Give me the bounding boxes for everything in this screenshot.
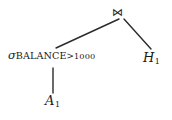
relation-a-symbol: A [45, 93, 54, 108]
predicate-comparison: > [67, 51, 74, 61]
relation-h-symbol: H [143, 50, 154, 65]
edge-join-to-relation-h [124, 19, 151, 49]
selection-predicate: BALANCE>1000 [16, 51, 95, 61]
join-bowtie-icon: ⋈ [112, 7, 123, 18]
predicate-value: 1000 [74, 51, 95, 61]
relation-node-a: A1 [45, 94, 60, 109]
predicate-attribute: BALANCE [16, 50, 67, 61]
selection-operator-node: σBALANCE>1000 [8, 50, 95, 62]
sigma-symbol: σ [8, 48, 16, 62]
relation-a-subscript: 1 [55, 100, 60, 109]
relation-node-h: H1 [143, 51, 160, 66]
edge-join-to-selection [56, 19, 119, 48]
relation-h-subscript: 1 [155, 57, 160, 66]
query-tree-figure: ⋈ σBALANCE>1000 A1 H1 [0, 0, 172, 120]
